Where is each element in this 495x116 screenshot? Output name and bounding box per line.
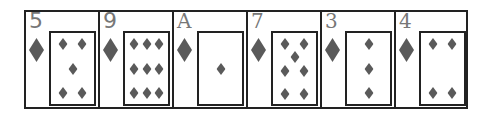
card-4-diamonds[interactable]: 4 <box>394 10 468 109</box>
diamond-pip-icon <box>130 38 139 50</box>
diamond-pip-icon <box>154 87 163 99</box>
diamond-pip-icon <box>448 87 457 99</box>
diamond-pip-icon <box>300 88 309 100</box>
diamond-pip-icon <box>154 63 163 75</box>
card-rank: A <box>177 9 191 33</box>
diamond-pip-icon <box>58 38 67 50</box>
diamond-pip-icon <box>364 87 373 99</box>
diamond-pip-icon <box>448 38 457 50</box>
card-9-diamonds[interactable]: 9 <box>98 10 172 109</box>
diamond-pip-icon <box>142 87 151 99</box>
diamond-pip-icon <box>58 87 67 99</box>
diamond-pip-icon <box>280 65 289 77</box>
diamond-pip-icon <box>68 63 77 75</box>
card-5-diamonds[interactable]: 5 <box>24 10 98 109</box>
diamond-pip-icon <box>142 38 151 50</box>
card-3-diamonds[interactable]: 3 <box>320 10 394 109</box>
diamond-pip-icon <box>428 38 437 50</box>
card-rank: 3 <box>325 9 338 33</box>
diamond-icon <box>103 38 118 62</box>
card-face <box>419 31 466 106</box>
diamond-pip-icon <box>364 63 373 75</box>
card-rank: 4 <box>399 9 412 33</box>
diamond-icon <box>399 38 414 62</box>
card-face <box>271 31 318 106</box>
card-7-diamonds[interactable]: 7 <box>246 10 320 109</box>
diamond-pip-icon <box>300 38 309 50</box>
diamond-pip-icon <box>280 38 289 50</box>
diamond-pip-icon <box>216 63 225 75</box>
card-rank: 9 <box>103 9 117 33</box>
diamond-icon <box>251 38 266 62</box>
card-face <box>345 31 392 106</box>
diamond-pip-icon <box>364 38 373 50</box>
card-face <box>123 31 170 106</box>
card-ace-diamonds[interactable]: A <box>172 10 246 109</box>
diamond-pip-icon <box>154 38 163 50</box>
diamond-pip-icon <box>300 65 309 77</box>
card-rank: 5 <box>29 9 43 33</box>
diamond-pip-icon <box>78 87 87 99</box>
diamond-pip-icon <box>130 87 139 99</box>
card-face <box>197 31 244 106</box>
card-face <box>49 31 96 106</box>
diamond-icon <box>325 38 340 62</box>
diamond-pip-icon <box>280 88 289 100</box>
diamond-pip-icon <box>78 38 87 50</box>
diamond-pip-icon <box>428 87 437 99</box>
diamond-pip-icon <box>290 51 299 63</box>
card-hand: 5 9 A 7 3 4 <box>24 10 468 109</box>
diamond-pip-icon <box>130 63 139 75</box>
diamond-icon <box>177 38 192 62</box>
diamond-pip-icon <box>142 63 151 75</box>
diamond-icon <box>29 38 44 62</box>
card-rank: 7 <box>251 9 264 33</box>
